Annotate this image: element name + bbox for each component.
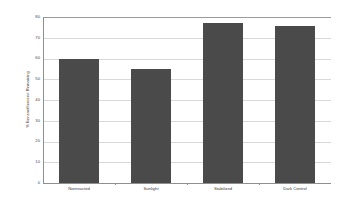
bar xyxy=(131,69,171,183)
bar-slot xyxy=(187,17,259,183)
bar-series xyxy=(43,17,331,183)
x-axis-tick-labels: NonreactedSunlightStabilizedDark Control xyxy=(43,186,331,200)
bar-chart: % Benzanthracene Remaining 8070605040302… xyxy=(0,0,347,207)
bar xyxy=(203,23,243,183)
x-tick-label: Stabilized xyxy=(214,186,232,191)
y-tick-label: 40 xyxy=(26,98,40,102)
bar-slot xyxy=(259,17,331,183)
y-axis-tick-labels: 80706050403020100 xyxy=(24,0,40,207)
y-tick-label: 80 xyxy=(26,15,40,19)
y-tick-label: 30 xyxy=(26,119,40,123)
y-tick-label: 70 xyxy=(26,36,40,40)
bar-slot xyxy=(115,17,187,183)
x-tick-label: Sunlight xyxy=(143,186,158,191)
y-tick-label: 20 xyxy=(26,139,40,143)
x-tick-label: Nonreacted xyxy=(68,186,90,191)
bar-slot xyxy=(43,17,115,183)
x-tick-mark xyxy=(115,183,116,185)
y-tick-label: 50 xyxy=(26,77,40,81)
bar xyxy=(59,59,99,184)
y-tick-label: 0 xyxy=(26,181,40,185)
y-tick-label: 10 xyxy=(26,160,40,164)
bar xyxy=(275,26,315,183)
x-tick-label: Dark Control xyxy=(283,186,307,191)
x-tick-mark xyxy=(187,183,188,185)
y-tick-label: 60 xyxy=(26,56,40,60)
x-tick-mark xyxy=(259,183,260,185)
